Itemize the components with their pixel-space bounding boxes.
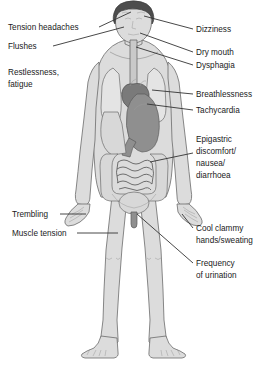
bladder (119, 192, 149, 214)
label-trembling: Trembling (12, 210, 49, 219)
label-muscle-tension: Muscle tension (12, 229, 67, 238)
label-dry-mouth: Dry mouth (196, 48, 234, 57)
label-dysphagia: Dysphagia (196, 61, 235, 70)
label-flushes: Flushes (8, 42, 37, 51)
label-dizziness: Dizziness (196, 25, 231, 34)
label-breathlessness: Breathlessness (196, 90, 252, 99)
label-tension-headaches: Tension headaches (8, 23, 79, 32)
urethra (131, 212, 137, 228)
anxiety-symptoms-diagram: Tension headaches Flushes Restlessness, … (0, 0, 267, 365)
label-tachycardia: Tachycardia (196, 106, 240, 115)
